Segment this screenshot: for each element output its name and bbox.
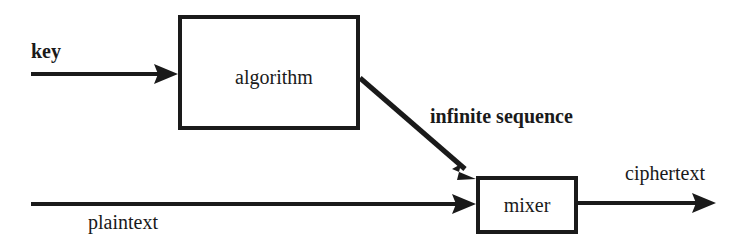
node-mixer: mixer [478,178,576,232]
node-algorithm: algorithm [180,17,358,128]
algorithm-box-label: algorithm [235,66,313,89]
edge-label-key: key [31,40,61,63]
edge-ciphertext-output: ciphertext [578,162,716,213]
edge-key-input: key [31,40,178,84]
edge-label-plaintext: plaintext [88,211,158,234]
edge-infinite-sequence: infinite sequence [360,78,573,180]
edge-label-infinite-sequence: infinite sequence [430,105,573,128]
diagram-canvas: key algorithm infinite sequence plaintex… [0,0,751,249]
mixer-box-label: mixer [504,194,551,216]
edge-plaintext-input: plaintext [31,194,476,234]
edge-label-ciphertext: ciphertext [625,162,705,185]
block-diagram-svg: key algorithm infinite sequence plaintex… [0,0,751,249]
